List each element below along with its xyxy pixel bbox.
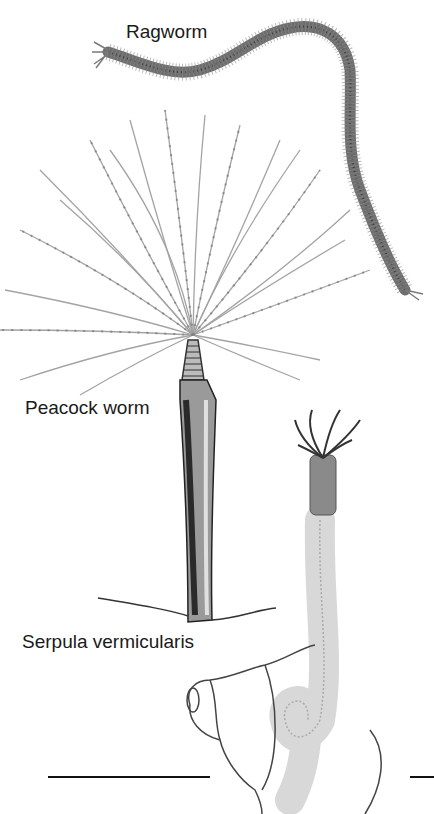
peacock-worm-tube	[180, 340, 216, 622]
label-serpula: Serpula vermicularis	[22, 632, 194, 651]
label-ragworm: Ragworm	[126, 22, 207, 41]
serpula-drawing	[284, 410, 360, 800]
peacock-worm-fan	[0, 110, 370, 395]
seabed-line	[98, 598, 276, 620]
label-peacock-worm: Peacock worm	[25, 398, 150, 417]
